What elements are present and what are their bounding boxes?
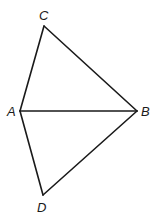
segment-db [43,111,137,195]
vertex-label-b: B [141,104,150,119]
segment-ac [20,26,44,111]
vertex-label-a: A [6,104,16,119]
segment-ad [20,111,43,195]
geometry-diagram: C A B D [0,0,156,222]
vertex-label-c: C [39,8,49,23]
segment-cb [44,26,137,111]
vertex-label-d: D [37,200,46,215]
